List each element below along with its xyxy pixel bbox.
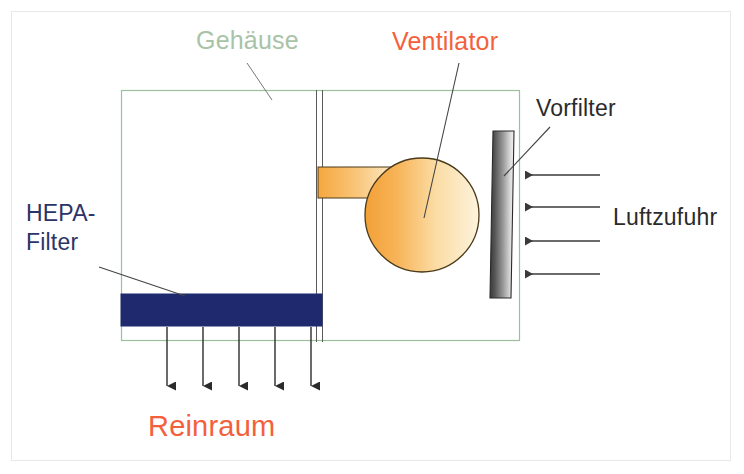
gehaeuse-leader-line: [247, 63, 272, 100]
diagram-canvas: Gehäuse Ventilator Vorfilter Luftzufuhr …: [0, 0, 744, 474]
outflow-arrow-group: [167, 327, 311, 386]
label-hepa-filter: HEPA- Filter: [26, 199, 96, 258]
label-reinraum: Reinraum: [148, 410, 275, 442]
diagram-vector-layer: [0, 0, 744, 474]
ventilator-circle: [365, 158, 479, 272]
label-hepa-line-2: Filter: [26, 228, 96, 257]
intake-arrow-group: [525, 175, 600, 274]
label-hepa-line-1: HEPA-: [26, 199, 96, 228]
label-vorfilter: Vorfilter: [536, 96, 616, 122]
hepa-filter-rect: [121, 294, 322, 326]
label-luftzufuhr: Luftzufuhr: [613, 205, 717, 231]
label-ventilator: Ventilator: [392, 27, 498, 55]
label-gehaeuse: Gehäuse: [196, 26, 299, 54]
hepa-leader-line: [99, 267, 185, 296]
prefilter-bar: [490, 131, 514, 298]
